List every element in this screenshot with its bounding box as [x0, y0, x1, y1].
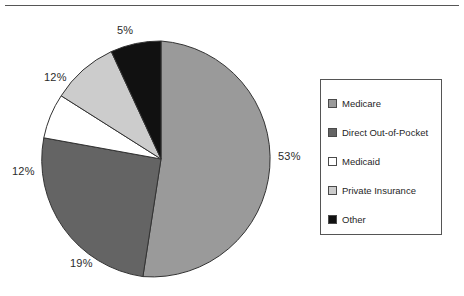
data-label-private-insurance: 12% [44, 71, 67, 83]
data-label-direct-out-of-pocket: 19% [70, 257, 93, 269]
legend-label-medicaid: Medicaid [342, 157, 380, 167]
legend-label-medicare: Medicare [342, 99, 381, 109]
legend-label-direct-out-of-pocket: Direct Out-of-Pocket [342, 128, 428, 138]
legend-label-other: Other [342, 215, 366, 225]
chart-legend: Medicare Direct Out-of-Pocket Medicaid P… [320, 79, 442, 235]
data-label-medicare: 53% [278, 150, 301, 162]
legend-swatch-icon-medicaid [328, 157, 337, 166]
top-divider-rule [5, 5, 459, 6]
legend-item-private-insurance[interactable]: Private Insurance [328, 176, 441, 205]
legend-item-medicaid[interactable]: Medicaid [328, 147, 441, 176]
pie-slice-medicare[interactable] [143, 41, 270, 277]
legend-item-other[interactable]: Other [328, 205, 441, 234]
legend-swatch-icon-medicare [328, 99, 337, 108]
legend-swatch-icon-private-insurance [328, 186, 337, 195]
data-label-medicaid: 12% [12, 165, 35, 177]
pie-chart-figure: 53% 19% 12% 12% 5% Medicare Direct Out-o… [0, 0, 464, 296]
legend-swatch-icon-direct-out-of-pocket [328, 128, 337, 137]
pie-chart-plot-area [36, 34, 286, 284]
legend-item-medicare[interactable]: Medicare [328, 89, 441, 118]
pie-svg [36, 34, 286, 284]
legend-swatch-icon-other [328, 215, 337, 224]
data-label-other: 5% [117, 24, 133, 36]
legend-item-direct-out-of-pocket[interactable]: Direct Out-of-Pocket [328, 118, 441, 147]
legend-label-private-insurance: Private Insurance [342, 186, 416, 196]
pie-slice-direct-out-of-pocket[interactable] [42, 138, 161, 277]
